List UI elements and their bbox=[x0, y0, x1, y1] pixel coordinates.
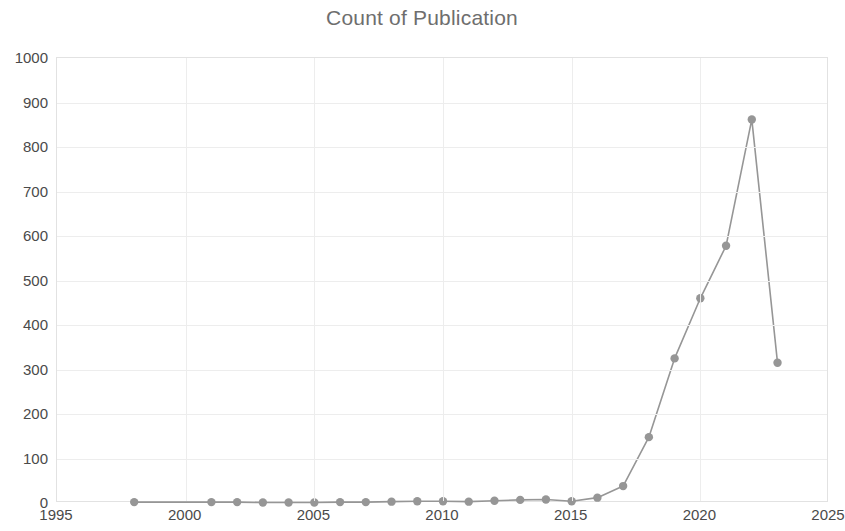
data-point-marker[interactable] bbox=[259, 498, 267, 506]
gridline-horizontal bbox=[57, 281, 827, 282]
data-point-marker[interactable] bbox=[465, 497, 473, 505]
series-line bbox=[134, 119, 777, 502]
gridline-horizontal bbox=[57, 103, 827, 104]
data-point-marker[interactable] bbox=[130, 498, 138, 506]
x-axis-tick-label: 1995 bbox=[39, 506, 72, 523]
data-point-marker[interactable] bbox=[619, 482, 627, 490]
x-axis-tick-label: 2015 bbox=[554, 506, 587, 523]
data-point-marker[interactable] bbox=[284, 498, 292, 506]
data-point-marker[interactable] bbox=[645, 433, 653, 441]
data-point-marker[interactable] bbox=[413, 497, 421, 505]
gridline-vertical bbox=[186, 58, 187, 501]
gridline-horizontal bbox=[57, 236, 827, 237]
data-point-marker[interactable] bbox=[233, 498, 241, 506]
data-point-marker[interactable] bbox=[336, 498, 344, 506]
gridline-vertical bbox=[572, 58, 573, 501]
data-point-marker[interactable] bbox=[490, 497, 498, 505]
gridline-vertical bbox=[700, 58, 701, 501]
data-point-marker[interactable] bbox=[516, 496, 524, 504]
x-axis-tick-label: 2000 bbox=[168, 506, 201, 523]
x-axis-tick-label: 2020 bbox=[683, 506, 716, 523]
data-point-marker[interactable] bbox=[387, 497, 395, 505]
x-axis-tick-label: 2010 bbox=[425, 506, 458, 523]
gridline-horizontal bbox=[57, 192, 827, 193]
data-point-marker[interactable] bbox=[362, 498, 370, 506]
data-point-marker[interactable] bbox=[748, 115, 756, 123]
gridline-vertical bbox=[314, 58, 315, 501]
data-point-marker[interactable] bbox=[773, 359, 781, 367]
data-point-marker[interactable] bbox=[542, 495, 550, 503]
gridline-horizontal bbox=[57, 414, 827, 415]
gridline-vertical bbox=[443, 58, 444, 501]
gridline-horizontal bbox=[57, 147, 827, 148]
data-point-marker[interactable] bbox=[207, 498, 215, 506]
data-point-marker[interactable] bbox=[593, 493, 601, 501]
gridline-horizontal bbox=[57, 459, 827, 460]
data-point-marker[interactable] bbox=[670, 354, 678, 362]
x-axis-tick-label: 2025 bbox=[811, 506, 844, 523]
x-axis-tick-label: 2005 bbox=[297, 506, 330, 523]
data-point-marker[interactable] bbox=[722, 242, 730, 250]
plot-area bbox=[56, 57, 828, 502]
gridline-horizontal bbox=[57, 370, 827, 371]
gridline-horizontal bbox=[57, 325, 827, 326]
